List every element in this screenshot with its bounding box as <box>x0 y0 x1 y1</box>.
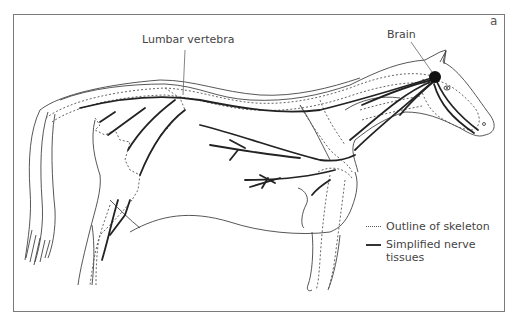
brain-label: Brain <box>387 28 416 41</box>
nostril-icon <box>483 123 486 126</box>
legend: Outline of skeleton Simplified nerve tis… <box>366 220 490 269</box>
brain-marker <box>429 71 441 83</box>
legend-label-skeleton: Outline of skeleton <box>386 220 490 233</box>
solid-line-swatch <box>366 244 381 246</box>
panel-letter: a <box>490 14 497 28</box>
horse-nerve-diagram <box>0 0 519 329</box>
legend-item-nerve: Simplified nerve tissues <box>366 238 490 264</box>
lumbar-leader-line <box>183 50 185 95</box>
brain-leader-line <box>411 42 432 72</box>
dotted-line-swatch <box>366 226 381 227</box>
legend-item-skeleton: Outline of skeleton <box>366 220 490 233</box>
lumbar-vertebra-label: Lumbar vertebra <box>142 33 235 46</box>
legend-label-nerve: Simplified nerve tissues <box>386 238 476 264</box>
